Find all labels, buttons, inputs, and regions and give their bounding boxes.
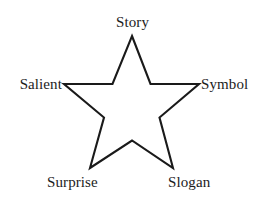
star-shape: [0, 0, 265, 205]
star-label-story: Story: [0, 14, 265, 30]
star-diagram: Story Salient Symbol Surprise Slogan: [0, 0, 265, 205]
star-label-surprise: Surprise: [47, 174, 98, 190]
star-label-slogan: Slogan: [168, 174, 210, 190]
star-label-salient: Salient: [0, 76, 62, 92]
star-outline-polygon: [64, 36, 199, 168]
star-label-symbol: Symbol: [201, 76, 248, 92]
